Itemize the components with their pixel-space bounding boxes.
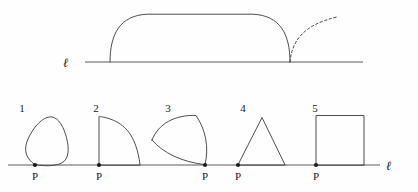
figure-canvas: ℓ 1 P 2 P 3	[0, 0, 418, 192]
shape-4-point-label: P	[235, 170, 241, 182]
shape-4-point-dot	[236, 163, 240, 167]
shape-4-group: 4 P	[235, 102, 285, 182]
shape-1-point-dot	[33, 163, 37, 167]
shape-4-number: 4	[240, 102, 246, 114]
shape-2-group: 2 P	[93, 102, 140, 182]
tangent-arc-dashed	[290, 17, 337, 62]
quarter-circle-shape	[99, 117, 140, 165]
shape-1-number: 1	[19, 102, 25, 114]
shape-3-number: 3	[165, 102, 171, 114]
top-panel: ℓ	[63, 14, 363, 70]
shape-2-number: 2	[93, 102, 99, 114]
shape-5-point-label: P	[313, 170, 319, 182]
rounded-triangle-shape	[26, 117, 69, 166]
reuleaux-triangle-shape	[152, 115, 207, 164]
shape-5-group: 5 P	[312, 102, 364, 182]
geometry-figure: ℓ 1 P 2 P 3	[0, 0, 418, 192]
shape-2-point-dot	[97, 163, 101, 167]
convex-dome-shape	[110, 14, 290, 62]
shape-2-point-label: P	[96, 170, 102, 182]
shape-5-number: 5	[312, 102, 318, 114]
shape-1-group: 1 P	[19, 102, 68, 182]
shape-3-point-dot	[203, 163, 207, 167]
shape-3-group: 3 P	[152, 102, 208, 182]
shape-3-point-label: P	[202, 170, 208, 182]
top-line-label: ℓ	[63, 56, 68, 70]
square-shape	[316, 116, 364, 165]
bottom-line-label: ℓ	[386, 159, 391, 173]
bottom-panel: 1 P 2 P 3 P 4 P	[8, 102, 391, 182]
shape-1-point-label: P	[32, 170, 38, 182]
triangle-shape	[238, 118, 285, 165]
shape-5-point-dot	[314, 163, 318, 167]
